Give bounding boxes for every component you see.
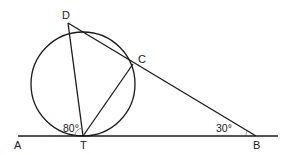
chord-dt	[68, 23, 83, 136]
angle-label-t: 80°	[63, 122, 79, 134]
label-point-d: D	[62, 9, 70, 21]
label-point-t: T	[80, 139, 87, 151]
angle-arc-b	[246, 131, 247, 136]
label-point-b: B	[253, 139, 260, 151]
label-point-a: A	[14, 139, 22, 151]
label-point-c: C	[138, 53, 146, 65]
geometry-diagram: D C A T B 80° 30°	[0, 0, 293, 155]
chord-tc	[83, 64, 133, 136]
angle-label-b: 30°	[216, 122, 232, 134]
secant-db	[68, 23, 256, 136]
